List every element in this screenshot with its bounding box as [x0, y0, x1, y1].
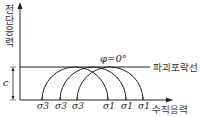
x-axis-label: 수직응력	[152, 102, 188, 116]
sigma1-label: σ1	[103, 101, 115, 111]
sigma3-label: σ3	[55, 101, 67, 111]
y-axis-label: 전단응력	[4, 4, 16, 48]
phi-label: φ=0°	[100, 53, 127, 64]
sigma1-label: σ1	[121, 101, 133, 111]
cohesion-arrow-down-icon	[12, 96, 15, 100]
cohesion-arrow-up-icon	[12, 67, 15, 71]
sigma1-label: σ1	[138, 101, 150, 111]
sigma3-label: σ3	[72, 101, 84, 111]
y-axis-arrow-icon	[18, 2, 23, 9]
sigma3-label: σ3	[37, 101, 49, 111]
failure-envelope-label: 파괴포락선	[153, 60, 198, 74]
cohesion-label: c	[3, 77, 9, 88]
